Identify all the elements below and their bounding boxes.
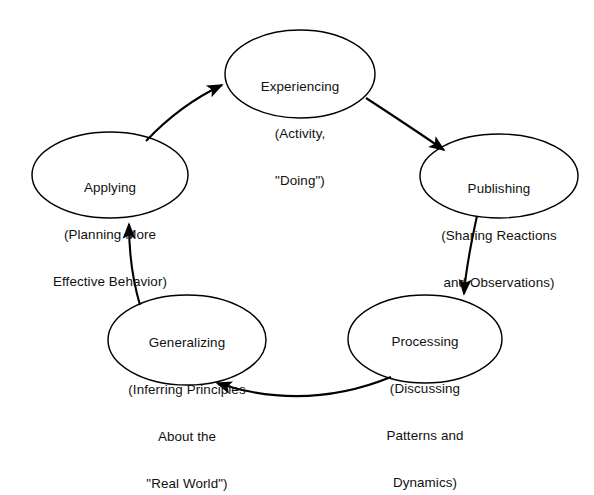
node-line: About the [102, 429, 272, 445]
node-line: "Real World") [102, 476, 272, 492]
node-ellipse-processing [348, 295, 502, 383]
arrow-experiencing-to-publishing [366, 98, 444, 150]
arrow-publishing-to-processing [464, 216, 477, 294]
node-ellipse-publishing [420, 134, 578, 218]
arrow-applying-to-experiencing [146, 85, 222, 141]
arrow-processing-to-generalizing [217, 377, 391, 396]
node-ellipse-experiencing [225, 30, 375, 118]
node-ellipse-applying [32, 132, 188, 218]
arrow-generalizing-to-applying [129, 224, 140, 305]
node-ellipse-generalizing [108, 295, 266, 385]
node-line: Patterns and [345, 428, 505, 444]
node-line: Dynamics) [345, 475, 505, 491]
